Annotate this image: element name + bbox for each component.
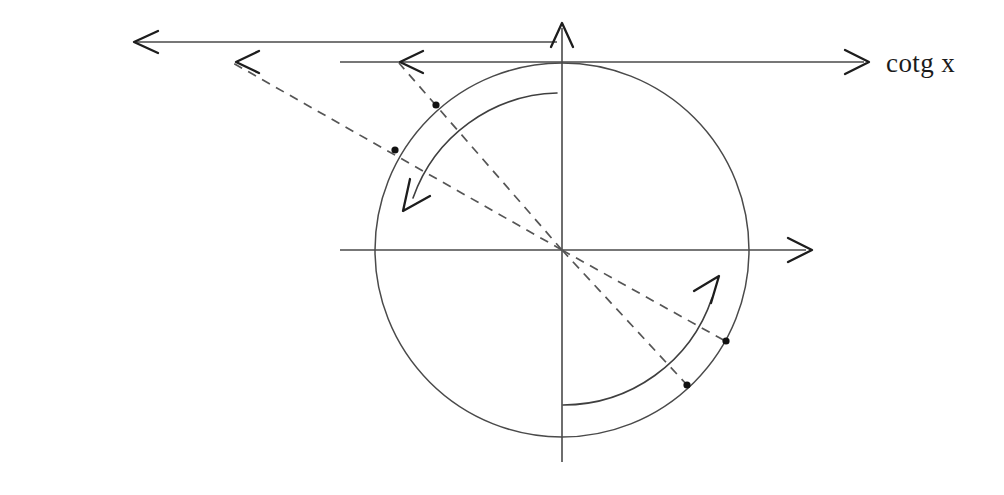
cotg-label: cotg x: [886, 48, 955, 78]
dashed-ray-to-cot-far: [233, 63, 562, 250]
dashed-ray-lower-1: [562, 250, 727, 342]
lower-right-arc-group: [563, 276, 719, 405]
dashed-ray-to-cot-near: [399, 63, 562, 250]
dashed-ray-lower-2: [562, 250, 688, 386]
upper-left-arc-arrowhead-icon: [403, 179, 430, 211]
point-lower-2: [683, 381, 690, 388]
upper-projection-line-group: [134, 31, 557, 53]
circle-points-group: [391, 101, 729, 388]
cotangent-arrowhead-far-icon: [236, 51, 259, 73]
dashed-rays-upper-group: [233, 63, 562, 250]
point-lower-1: [722, 337, 729, 344]
dashed-rays-lower-group: [562, 250, 727, 386]
lower-right-arc-arrowhead-icon: [694, 276, 719, 303]
upper-left-arc-group: [403, 93, 557, 211]
point-upper-2: [391, 146, 398, 153]
cotangent-axis-group: [236, 50, 869, 74]
cotangent-diagram: cotg x: [0, 0, 1004, 495]
y-axis-group: [551, 23, 573, 462]
point-upper-1: [432, 101, 439, 108]
lower-right-arc: [563, 298, 712, 405]
upper-left-arc: [413, 93, 557, 198]
diagram-canvas: cotg x: [0, 0, 1004, 495]
